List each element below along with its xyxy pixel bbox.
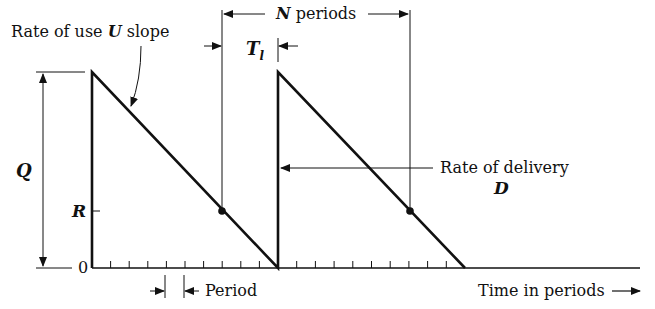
rate-of-delivery-label: Rate of delivery bbox=[440, 160, 569, 176]
inventory-diagram bbox=[0, 0, 655, 309]
rate-of-use-label: Rate of use U slope bbox=[11, 24, 169, 40]
rate-of-use-pointer bbox=[131, 46, 141, 106]
reorder-point-2 bbox=[406, 207, 414, 215]
q-label: Q bbox=[16, 162, 32, 180]
n-periods-label: N periods bbox=[276, 6, 356, 22]
lead-time-label: Tl bbox=[246, 40, 264, 62]
inventory-sawtooth-line bbox=[92, 72, 465, 268]
time-axis-label: Time in periods bbox=[478, 283, 605, 299]
rate-of-delivery-symbol: D bbox=[494, 180, 509, 197]
period-label: Period bbox=[205, 283, 257, 299]
reorder-point-1 bbox=[218, 207, 226, 215]
r-label: R bbox=[72, 203, 86, 220]
zero-label: 0 bbox=[78, 260, 88, 276]
